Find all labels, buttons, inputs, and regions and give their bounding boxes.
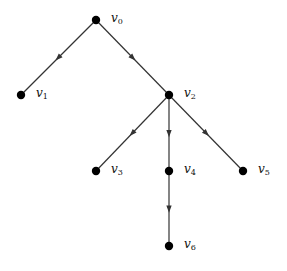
node-v0	[92, 16, 100, 24]
arrow-icon	[55, 54, 61, 60]
labels: v0v1v2v3v4v5v6	[36, 11, 270, 252]
node-v6	[165, 242, 173, 250]
label-v2: v2	[184, 86, 196, 101]
arrow-icon	[129, 130, 135, 136]
arrow-icon	[129, 54, 135, 60]
arrow-icon	[167, 206, 171, 211]
label-v5: v5	[258, 162, 270, 177]
label-v1: v1	[36, 86, 48, 101]
label-v3: v3	[111, 162, 123, 177]
label-v4: v4	[184, 162, 196, 177]
node-v1	[17, 91, 25, 99]
node-v5	[239, 167, 247, 175]
node-v3	[92, 167, 100, 175]
edges	[21, 20, 243, 246]
tree-diagram: v0v1v2v3v4v5v6	[0, 0, 287, 271]
arrow-icon	[167, 131, 171, 136]
node-v2	[165, 91, 173, 99]
label-v0: v0	[111, 11, 123, 26]
node-v4	[165, 167, 173, 175]
label-v6: v6	[184, 237, 196, 252]
arrow-icon	[203, 130, 209, 136]
